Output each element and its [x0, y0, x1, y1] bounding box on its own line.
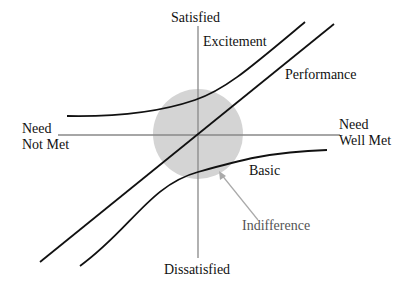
excitement-curve	[67, 22, 305, 116]
label-need-not-met-line1: Need	[22, 121, 52, 137]
kano-model-diagram: Satisfied Excitement Performance Need No…	[0, 0, 414, 292]
label-need-well-met-line1: Need	[339, 117, 369, 133]
label-indifference: Indifference	[242, 218, 310, 234]
indifference-arrow	[221, 174, 258, 220]
label-dissatisfied: Dissatisfied	[164, 262, 230, 278]
label-satisfied: Satisfied	[171, 10, 220, 26]
label-basic: Basic	[249, 163, 280, 179]
label-need-well-met-line2: Well Met	[339, 133, 391, 149]
label-excitement: Excitement	[203, 34, 267, 50]
label-performance: Performance	[285, 67, 357, 83]
label-need-not-met-line2: Not Met	[22, 137, 69, 153]
